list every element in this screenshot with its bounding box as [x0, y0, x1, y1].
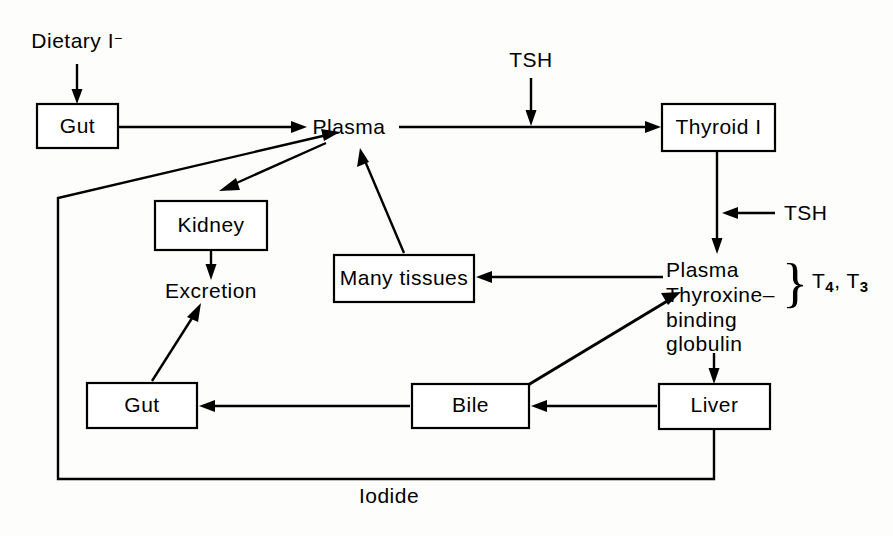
edge-bile-to-gut-bottom	[199, 400, 410, 412]
node-thyroid-label: Thyroid I	[675, 115, 761, 138]
label-plasma-top: Plasma	[312, 115, 385, 138]
edge-dietary-to-gut	[72, 64, 83, 104]
edge-gut-to-plasma	[119, 121, 307, 133]
edge-plasma-to-kidney	[219, 143, 326, 191]
node-gut-bottom: Gut	[87, 383, 197, 428]
label-tbg-line2: Thyroxine–	[666, 283, 775, 306]
iodine-metabolism-diagram: Gut Thyroid I Kidney Many tissues Gut Bi…	[0, 0, 893, 536]
edge-tsh-to-thyroid-tbg-line	[722, 207, 775, 219]
edge-liver-to-bile	[531, 400, 657, 412]
label-iodide-feedback: Iodide	[359, 484, 419, 507]
edge-tbg-to-many-tissues	[476, 271, 663, 283]
curly-brace-icon: }	[782, 253, 808, 313]
node-liver: Liver	[659, 384, 770, 429]
node-thyroid: Thyroid I	[662, 104, 775, 151]
node-many-tissues: Many tissues	[334, 255, 474, 302]
diagram-canvas: Gut Thyroid I Kidney Many tissues Gut Bi…	[0, 0, 893, 536]
edge-tbg-to-liver	[709, 353, 720, 384]
node-liver-label: Liver	[690, 393, 738, 416]
label-tsh-plasma-to-thyroid: TSH	[509, 48, 553, 71]
label-tbg-block: Plasma Thyroxine– binding globulin	[666, 258, 775, 355]
node-bile-label: Bile	[452, 393, 489, 416]
label-dietary-iodide: Dietary I−	[31, 29, 122, 52]
label-tbg-line3: binding	[666, 308, 737, 331]
edge-many-tissues-to-plasma	[357, 148, 404, 253]
node-bile: Bile	[412, 384, 529, 428]
node-kidney: Kidney	[155, 201, 267, 250]
label-excretion: Excretion	[165, 279, 257, 302]
edge-thyroid-to-tbg	[712, 152, 723, 254]
node-gut-top-label: Gut	[60, 114, 95, 137]
node-gut-top: Gut	[37, 104, 118, 148]
edge-gut-bottom-to-excretion	[152, 303, 201, 381]
edge-bile-to-tbg	[528, 292, 681, 385]
node-many-tissues-label: Many tissues	[340, 266, 469, 289]
node-kidney-label: Kidney	[177, 213, 244, 236]
label-tbg-line4: globulin	[666, 332, 742, 355]
label-tbg-line1: Plasma	[666, 258, 739, 281]
edge-kidney-to-excretion	[206, 251, 217, 280]
label-tsh-thyroid-output: TSH	[784, 201, 828, 224]
node-gut-bottom-label: Gut	[124, 393, 159, 416]
label-hormones-t4-t3: T4, T3	[812, 269, 869, 295]
edge-tsh-to-plasma-thyroid-line	[526, 78, 537, 126]
